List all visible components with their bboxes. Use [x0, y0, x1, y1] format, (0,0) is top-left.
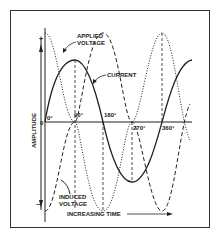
- waveform-diagram: + − AMPLITUDE 0 0° 90° 180° 270° 360° AP…: [0, 0, 216, 242]
- minus-sign: −: [36, 201, 40, 208]
- applied-voltage-label-1: APPLIED: [77, 33, 104, 39]
- induced-voltage-label-2: VOLTAGE: [59, 201, 87, 207]
- plus-sign: +: [39, 35, 43, 42]
- origin-label: 0: [40, 120, 44, 126]
- right-arrow-icon: [167, 212, 173, 216]
- up-arrow-icon: [39, 44, 43, 52]
- current-curve: [45, 60, 192, 182]
- tick-180: 180°: [104, 112, 117, 118]
- tick-360: 360°: [162, 125, 175, 131]
- tick-270: 270°: [133, 125, 146, 131]
- current-label: CURRENT: [107, 72, 137, 78]
- induced-pointer: [61, 180, 70, 194]
- applied-voltage-label-2: VOLTAGE: [77, 40, 105, 46]
- tick-0: 0°: [47, 115, 53, 121]
- y-axis-label: AMPLITUDE: [31, 113, 37, 148]
- induced-voltage-label-1: INDUCED: [59, 194, 87, 200]
- current-arrow-icon: [93, 79, 97, 84]
- x-axis-label: INCREASING TIME: [67, 211, 121, 217]
